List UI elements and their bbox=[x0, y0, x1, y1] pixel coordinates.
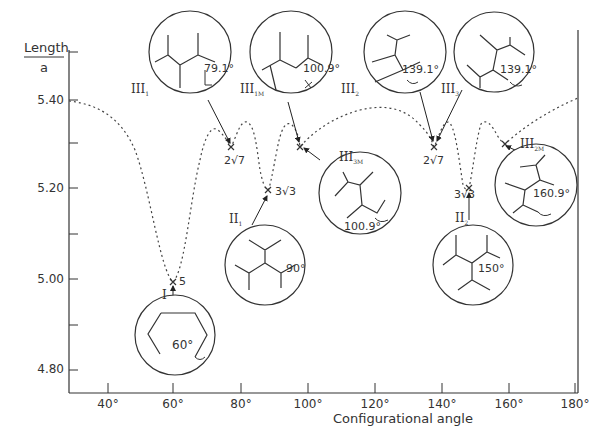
structure-III3-circle bbox=[454, 12, 534, 92]
angle-160-9: 160.9° bbox=[533, 187, 570, 200]
xtick-60: 60° bbox=[153, 397, 193, 411]
ytick-5-40: 5.40 bbox=[24, 93, 64, 107]
label-II2: II2 bbox=[455, 211, 468, 226]
xtick-180: 180° bbox=[555, 397, 595, 411]
ytick-4-80: 4.80 bbox=[24, 362, 64, 376]
label-I: I bbox=[162, 288, 167, 302]
point-label-2root7-b: 2√7 bbox=[423, 154, 444, 167]
label-III1: III1 bbox=[131, 82, 149, 97]
ylabel-bottom: a bbox=[40, 60, 48, 75]
point-label-2root7-a: 2√7 bbox=[224, 154, 245, 167]
structure-III1-circle bbox=[149, 11, 231, 93]
xlabel: Configurational angle bbox=[333, 411, 473, 426]
y-ticks bbox=[69, 52, 78, 370]
xtick-100: 100° bbox=[288, 397, 328, 411]
point-label-3root3-a: 3√3 bbox=[275, 185, 296, 198]
point-label-5: 5 bbox=[179, 275, 186, 288]
ylabel-top: Length bbox=[24, 40, 69, 55]
xtick-140: 140° bbox=[422, 397, 462, 411]
label-III2M: III2M bbox=[520, 137, 544, 152]
angle-139-1-a: 139.1° bbox=[402, 63, 439, 76]
x-ticks bbox=[108, 383, 575, 393]
ytick-5-20: 5.20 bbox=[24, 181, 64, 195]
angle-139-1-b: 139.1° bbox=[500, 63, 537, 76]
structure-III1M-circle bbox=[250, 11, 332, 93]
structure-III2M-circle bbox=[495, 144, 577, 226]
label-III3: III3 bbox=[441, 82, 459, 97]
angle-90: 90° bbox=[286, 262, 306, 275]
angle-60: 60° bbox=[172, 338, 193, 352]
point-label-3root3-b: 3√3 bbox=[454, 188, 475, 201]
xtick-120: 120° bbox=[355, 397, 395, 411]
structure-III2-circle bbox=[364, 11, 446, 93]
angle-100-9-b: 100.9° bbox=[344, 220, 381, 233]
ytick-5-00: 5.00 bbox=[24, 272, 64, 286]
xtick-160: 160° bbox=[489, 397, 529, 411]
xtick-40: 40° bbox=[88, 397, 128, 411]
xtick-80: 80° bbox=[221, 397, 261, 411]
angle-150: 150° bbox=[478, 262, 505, 275]
label-II1: II1 bbox=[229, 212, 242, 227]
angle-79-1: 79.1° bbox=[204, 62, 234, 75]
label-III2: III2 bbox=[341, 82, 359, 97]
structure-I-circle bbox=[135, 295, 215, 375]
angle-100-9-a: 100.9° bbox=[303, 62, 340, 75]
label-III3M: III3M bbox=[339, 150, 363, 165]
label-III1M: III1M bbox=[240, 82, 264, 97]
